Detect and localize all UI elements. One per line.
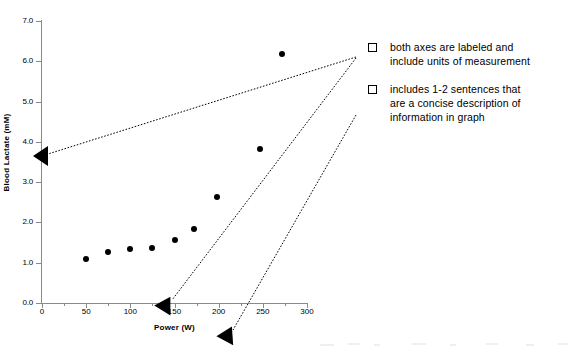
note-line: are a concise description of — [390, 96, 521, 110]
note-item: includes 1-2 sentences that are a concis… — [368, 82, 578, 124]
x-axis-title: Power (W) — [42, 323, 307, 332]
x-tick-label: 250 — [250, 308, 276, 316]
note-text: both axes are labeled and include units … — [390, 40, 530, 68]
x-tick-label: 200 — [206, 308, 232, 316]
x-minor-tick — [285, 303, 286, 306]
data-point — [279, 51, 285, 57]
note-line: include units of measurement — [390, 54, 530, 68]
data-point-layer — [42, 21, 307, 303]
x-minor-tick — [64, 303, 65, 306]
screenshot-root: 0.01.02.03.04.05.06.07.0 050100150200250… — [0, 0, 581, 350]
lactate-scatter-chart: 0.01.02.03.04.05.06.07.0 050100150200250… — [0, 0, 340, 350]
y-axis-title: Blood Lactate (mM) — [2, 114, 11, 192]
note-line: includes 1-2 sentences that — [390, 82, 521, 96]
requirements-note-list: both axes are labeled and include units … — [368, 40, 578, 138]
data-point — [214, 194, 220, 200]
x-tick-label: 0 — [29, 308, 55, 316]
note-line: information in graph — [390, 110, 521, 124]
x-tick-label: 300 — [294, 308, 320, 316]
data-point — [191, 226, 197, 232]
data-point — [105, 249, 111, 255]
data-point — [83, 256, 89, 262]
note-line: both axes are labeled and — [390, 40, 530, 54]
x-minor-tick — [152, 303, 153, 306]
checkbox-bullet-icon — [368, 43, 377, 52]
scan-artifact — [300, 341, 581, 350]
note-item: both axes are labeled and include units … — [368, 40, 578, 68]
data-point — [149, 245, 155, 251]
data-point — [257, 146, 263, 152]
x-tick-label: 100 — [117, 308, 143, 316]
data-point — [127, 246, 133, 252]
x-minor-tick — [197, 303, 198, 306]
x-minor-tick — [108, 303, 109, 306]
x-tick-label: 50 — [73, 308, 99, 316]
data-point — [172, 237, 178, 243]
x-tick-label: 150 — [162, 308, 188, 316]
x-minor-tick — [241, 303, 242, 306]
note-text: includes 1-2 sentences that are a concis… — [390, 82, 521, 124]
checkbox-bullet-icon — [368, 85, 377, 94]
